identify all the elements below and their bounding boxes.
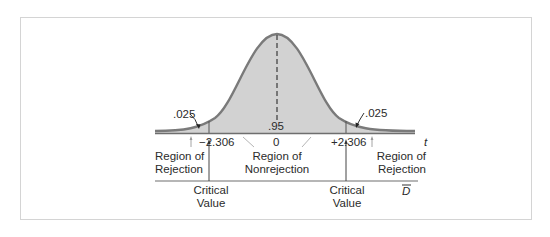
critical-right-line1: Critical bbox=[322, 184, 372, 197]
tail-left-area-label: .025 bbox=[173, 108, 195, 121]
nonrejection-pointer-left bbox=[243, 137, 254, 147]
t-distribution-figure bbox=[0, 0, 550, 237]
nonrejection-pointer-right bbox=[302, 137, 311, 147]
critical-left-line1: Critical bbox=[186, 184, 236, 197]
region-right-line2: Rejection bbox=[350, 163, 426, 176]
region-center-line1: Region of bbox=[237, 150, 317, 163]
critical-value-right-label: Critical Value bbox=[322, 184, 372, 210]
region-center-label: Region of Nonrejection bbox=[237, 150, 317, 176]
tick-label-center: 0 bbox=[273, 136, 279, 149]
tick-label-right: +2.306 bbox=[331, 136, 367, 149]
tick-label-left: −2.306 bbox=[199, 136, 235, 149]
center-area-label: .95 bbox=[268, 120, 284, 133]
region-center-line2: Nonrejection bbox=[237, 163, 317, 176]
critical-left-line2: Value bbox=[186, 197, 236, 210]
region-left-line1: Region of bbox=[155, 150, 209, 163]
critical-value-left-label: Critical Value bbox=[186, 184, 236, 210]
critical-right-line2: Value bbox=[322, 197, 372, 210]
region-left-label: Region of Rejection bbox=[155, 150, 209, 176]
region-right-label: Region of Rejection bbox=[350, 150, 426, 176]
tail-pointer-right bbox=[357, 113, 364, 125]
t-axis-label: t bbox=[424, 136, 427, 149]
region-right-line1: Region of bbox=[350, 150, 426, 163]
arrowhead-icon bbox=[190, 136, 193, 140]
tail-right-area-label: .025 bbox=[365, 107, 387, 120]
d-bar-axis-label: D bbox=[402, 185, 410, 198]
arrowhead-icon bbox=[371, 136, 374, 140]
region-left-line2: Rejection bbox=[155, 163, 209, 176]
